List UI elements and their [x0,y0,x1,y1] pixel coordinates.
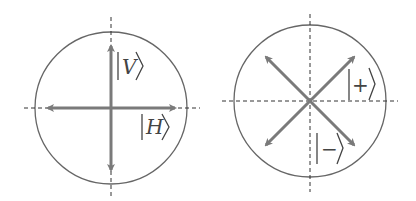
ket-plus-label: + [349,68,375,100]
svg-text:H: H [145,115,164,139]
ket-h-label: H [142,114,169,140]
svg-text:V: V [122,55,139,79]
svg-text:+: + [352,73,369,97]
minus-arrow-upleft [266,57,310,101]
plus-arrow-downleft [266,101,310,145]
plus-arrow-upright [310,57,354,101]
polarization-basis-diagram: V H + − [0,0,416,201]
ket-minus-label: − [317,133,343,164]
diagonal-basis: + − [222,14,398,192]
rectilinear-basis: V H [24,17,200,198]
svg-text:−: − [321,137,338,161]
ket-v-label: V [118,52,143,80]
